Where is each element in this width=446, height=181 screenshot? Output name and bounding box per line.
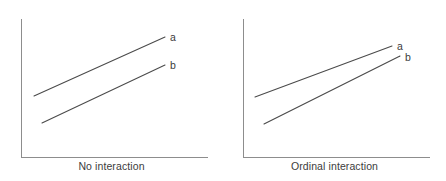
series-label-b: b bbox=[405, 51, 411, 63]
series-line-a bbox=[255, 46, 392, 97]
series-line-b bbox=[42, 65, 165, 123]
series-line-a bbox=[34, 37, 165, 96]
panel-caption-no-interaction: No interaction bbox=[0, 160, 223, 173]
series-label-a: a bbox=[397, 40, 403, 52]
panel-ordinal-interaction-plot: a b bbox=[223, 0, 446, 181]
panel-no-interaction: a b No interaction bbox=[0, 0, 223, 181]
panel-ordinal-interaction: a b Ordinal interaction bbox=[223, 0, 446, 181]
panel-no-interaction-plot: a b bbox=[0, 0, 223, 181]
interaction-plots-figure: a b No interaction a b Ordinal interacti… bbox=[0, 0, 446, 181]
panel-caption-ordinal-interaction: Ordinal interaction bbox=[223, 160, 446, 173]
series-line-b bbox=[264, 56, 400, 124]
series-label-b: b bbox=[170, 59, 176, 71]
series-label-a: a bbox=[170, 31, 176, 43]
